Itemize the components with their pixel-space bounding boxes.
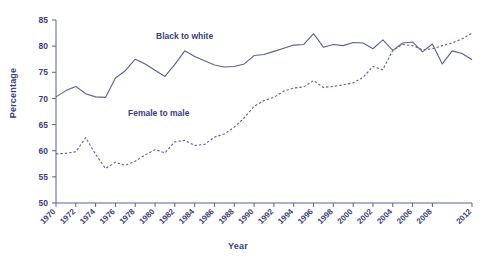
x-tick-label: 2004 bbox=[375, 207, 394, 226]
series-label-female-to-male: Female to male bbox=[128, 108, 189, 118]
chart-container: 5055606570758085 19701972197419761978198… bbox=[0, 0, 482, 264]
x-tick-label: 1994 bbox=[276, 207, 295, 226]
y-tick-label: 60 bbox=[39, 146, 49, 156]
x-tick-label: 1982 bbox=[157, 207, 176, 226]
x-tick-label: 2012 bbox=[454, 207, 473, 226]
x-tick-label: 2008 bbox=[415, 207, 434, 226]
x-tick-label: 1988 bbox=[217, 207, 236, 226]
x-tick-label: 1984 bbox=[177, 207, 196, 226]
x-axis-title: Year bbox=[208, 241, 268, 251]
x-tick-label: 1972 bbox=[58, 207, 77, 226]
series-line-black-to-white bbox=[56, 34, 472, 98]
x-tick-label: 1996 bbox=[296, 207, 315, 226]
x-tick-label: 1998 bbox=[316, 207, 335, 226]
x-tick-label: 1970 bbox=[38, 207, 57, 226]
y-tick-label: 70 bbox=[39, 94, 49, 104]
x-tick-label: 1992 bbox=[256, 207, 275, 226]
y-axis-title: Percentage bbox=[8, 58, 18, 128]
x-tick-label: 1976 bbox=[98, 207, 117, 226]
x-tick-label: 2002 bbox=[355, 207, 374, 226]
y-tick-label: 80 bbox=[39, 41, 49, 51]
y-tick-label: 85 bbox=[39, 15, 49, 25]
series-label-black-to-white: Black to white bbox=[156, 31, 213, 41]
line-chart-plot: 5055606570758085 19701972197419761978198… bbox=[0, 0, 482, 264]
y-axis-ticks: 5055606570758085 bbox=[39, 15, 56, 208]
x-tick-label: 1978 bbox=[118, 207, 137, 226]
x-axis-ticks: 1970197219741976197819801982198419861988… bbox=[38, 203, 473, 226]
x-tick-label: 1990 bbox=[237, 207, 256, 226]
x-tick-label: 2006 bbox=[395, 207, 414, 226]
series-line-female-to-male bbox=[56, 33, 472, 168]
y-tick-label: 50 bbox=[39, 198, 49, 208]
y-tick-label: 75 bbox=[39, 67, 49, 77]
x-tick-label: 1986 bbox=[197, 207, 216, 226]
y-tick-label: 55 bbox=[39, 172, 49, 182]
x-tick-label: 2000 bbox=[336, 207, 355, 226]
x-tick-label: 1974 bbox=[78, 207, 97, 226]
axis-frame bbox=[56, 20, 472, 203]
y-tick-label: 65 bbox=[39, 120, 49, 130]
x-tick-label: 1980 bbox=[138, 207, 157, 226]
